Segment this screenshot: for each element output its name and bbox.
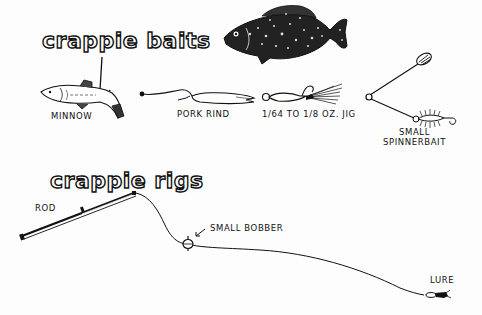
minnow-illustration [41, 57, 124, 118]
illustration-canvas: crappie baits crappie rigs MINNOW PORK R… [0, 0, 482, 315]
jig-illustration [263, 84, 343, 104]
pork-rind-illustration [140, 90, 254, 104]
bobber-label: SMALL BOBBER [210, 224, 283, 234]
spinnerbait-label-line2: SPINNERBAIT [383, 138, 446, 148]
lure-illustration [426, 290, 451, 298]
fishing-line [136, 193, 424, 295]
bobber-illustration [183, 229, 205, 251]
spinnerbait-label: SMALL SPINNERBAIT [383, 128, 446, 148]
crappie-fish-illustration [224, 5, 347, 64]
minnow-label: MINNOW [51, 112, 92, 122]
rod-illustration [19, 191, 136, 241]
baits-heading: crappie baits [42, 30, 211, 52]
jig-label: 1/64 TO 1/8 OZ. JIG [262, 110, 356, 120]
rod-label: ROD [35, 204, 56, 214]
spinnerbait-illustration [366, 51, 456, 128]
pork-rind-label: PORK RIND [177, 110, 230, 120]
rigs-heading: crappie rigs [50, 170, 204, 192]
lure-label: LURE [430, 276, 454, 286]
